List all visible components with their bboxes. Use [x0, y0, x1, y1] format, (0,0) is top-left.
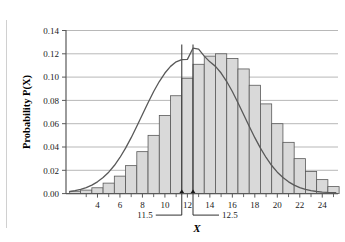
annotation-label-lower: 11.5 — [137, 210, 153, 220]
bar — [171, 96, 182, 194]
bar — [204, 56, 215, 193]
bar — [272, 124, 283, 194]
bar — [182, 78, 193, 193]
x-tick-label: 24 — [318, 200, 328, 210]
bar — [137, 152, 148, 194]
y-tick-label: 0.04 — [43, 142, 59, 152]
bar — [260, 104, 271, 194]
x-tick-label: 14 — [205, 200, 215, 210]
bar — [283, 142, 294, 193]
x-tick-label: 8 — [140, 200, 145, 210]
annotation-label-upper: 12.5 — [222, 210, 238, 220]
bar — [193, 64, 204, 193]
y-tick-label: 0.06 — [43, 119, 59, 129]
x-tick-label-group: 4681012141618202224 — [95, 200, 327, 210]
x-tick-label: 16 — [228, 200, 238, 210]
y-axis-title: Probability P(X) — [21, 74, 33, 149]
bar — [238, 69, 249, 194]
x-tick-label: 18 — [250, 200, 260, 210]
bar — [215, 54, 226, 194]
x-tick-label: 6 — [118, 200, 123, 210]
y-tick-label: 0.02 — [43, 166, 59, 176]
bar — [103, 183, 114, 193]
x-tick-label: 22 — [295, 200, 304, 210]
x-tick-label: 12 — [183, 200, 192, 210]
y-tick-label: 0.14 — [43, 26, 59, 36]
y-tick-label: 0.00 — [43, 189, 59, 199]
y-tick-label: 0.10 — [43, 72, 59, 82]
x-axis-title: X — [192, 222, 201, 234]
bar — [114, 176, 125, 193]
bar — [159, 116, 170, 194]
y-tick-label-group: 0.000.020.040.060.080.100.120.14 — [43, 26, 59, 199]
bar — [249, 85, 260, 193]
bar — [126, 166, 137, 194]
bar — [92, 188, 103, 194]
x-tick-group — [86, 194, 333, 198]
binomial-distribution-figure: 0.000.020.040.060.080.100.120.14 4681012… — [0, 0, 345, 242]
y-tick-label: 0.12 — [43, 49, 59, 59]
y-tick-label: 0.08 — [43, 96, 59, 106]
bar — [148, 135, 159, 193]
bar — [227, 58, 238, 193]
chart-svg: 0.000.020.040.060.080.100.120.14 4681012… — [0, 0, 345, 242]
x-tick-label: 4 — [95, 200, 100, 210]
x-tick-label: 10 — [160, 200, 170, 210]
x-tick-label: 20 — [273, 200, 283, 210]
